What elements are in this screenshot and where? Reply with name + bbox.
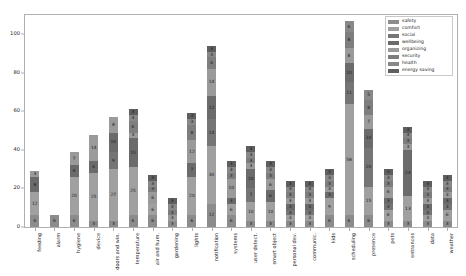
bar-segment[interactable]: 8 — [364, 100, 373, 115]
bar-segment[interactable]: 12 — [187, 140, 196, 163]
bar-group[interactable]: 3333107103 — [246, 15, 255, 227]
bar-segment[interactable]: 8 — [345, 32, 354, 47]
bar-segment[interactable]: 3 — [423, 221, 432, 227]
bar-segment[interactable]: 6 — [364, 215, 373, 227]
bar-segment[interactable]: 9 — [325, 198, 334, 215]
bar-segment[interactable]: 20 — [364, 148, 373, 187]
bar-segment[interactable]: 10 — [246, 202, 255, 221]
bar-segment[interactable]: 8 — [345, 48, 354, 63]
bar-segment[interactable]: 9 — [109, 152, 118, 169]
bar-group[interactable]: 333666 — [148, 15, 157, 227]
bar-segment[interactable]: 3 — [443, 221, 452, 227]
bar-segment[interactable]: 10 — [246, 169, 255, 188]
bar-group[interactable]: 336315256 — [129, 15, 138, 227]
bar-segment[interactable]: 6 — [325, 215, 334, 227]
bar-segment[interactable]: 3 — [403, 221, 412, 227]
bar-group[interactable]: 33366103 — [266, 15, 275, 227]
bar-segment[interactable]: 3 — [286, 221, 295, 227]
bar-segment[interactable]: 25 — [89, 173, 98, 221]
bar-group[interactable]: 8109273 — [109, 15, 118, 227]
bar-segment[interactable]: 6 — [227, 215, 236, 227]
bar-segment[interactable]: 7 — [246, 188, 255, 201]
bar-segment[interactable]: 15 — [129, 138, 138, 167]
bar-segment[interactable]: 13 — [403, 196, 412, 221]
bar-segment[interactable]: 6 — [148, 215, 157, 227]
bar-segment[interactable]: 30 — [207, 146, 216, 204]
bar-segment[interactable]: 10 — [364, 129, 373, 148]
bar-group[interactable]: 76206 — [70, 15, 79, 227]
bar-segment[interactable]: 6 — [70, 165, 79, 177]
bar-segment[interactable]: 6 — [384, 187, 393, 199]
bar-group[interactable]: 6 — [50, 15, 59, 227]
bar-segment[interactable]: 6 — [129, 121, 138, 133]
legend-item[interactable]: social — [388, 32, 450, 39]
legend-item[interactable]: safety — [388, 18, 450, 25]
bar-group[interactable]: 338127206 — [187, 15, 196, 227]
bar-group[interactable]: 33310366 — [227, 15, 236, 227]
bar-segment[interactable]: 12 — [207, 96, 216, 119]
bar-segment[interactable]: 3 — [89, 221, 98, 227]
bar-group[interactable]: 6881011586 — [345, 15, 354, 227]
bar-segment[interactable]: 10 — [345, 63, 354, 82]
bar-segment[interactable]: 6 — [50, 215, 59, 227]
bar-segment[interactable]: 12 — [30, 192, 39, 215]
bar-segment[interactable]: 25 — [129, 167, 138, 215]
bar-segment[interactable]: 7 — [187, 163, 196, 176]
bar-segment[interactable]: 15 — [364, 187, 373, 216]
legend-item[interactable]: wellbeing — [388, 39, 450, 46]
bar-segment[interactable]: 6 — [148, 204, 157, 216]
bar-segment[interactable]: 6 — [345, 215, 354, 227]
bar-group[interactable]: 146253 — [89, 15, 98, 227]
bar-segment[interactable]: 12 — [207, 204, 216, 227]
legend-item[interactable]: comfort — [388, 25, 450, 32]
bar-segment[interactable]: 6 — [89, 161, 98, 173]
bar-segment[interactable]: 8 — [109, 117, 118, 132]
bar-segment[interactable]: 14 — [89, 135, 98, 162]
bar-segment[interactable]: 58 — [345, 104, 354, 216]
bar-group[interactable]: 38126 — [30, 15, 39, 227]
bar-segment[interactable]: 6 — [266, 179, 275, 191]
bar-segment[interactable]: 3 — [305, 221, 314, 227]
legend-item[interactable]: organizing — [388, 46, 450, 53]
bar-segment[interactable]: 11 — [345, 82, 354, 103]
bar-segment[interactable]: 24 — [403, 150, 412, 196]
bar-segment[interactable]: 6 — [129, 215, 138, 227]
bar-segment[interactable]: 27 — [109, 169, 118, 221]
bar-group[interactable]: 33333333 — [286, 15, 295, 227]
bar-segment[interactable]: 20 — [187, 177, 196, 216]
bar-segment[interactable]: 7 — [364, 115, 373, 128]
bar-segment[interactable]: 6 — [266, 190, 275, 202]
bar-segment[interactable]: 3 — [168, 221, 177, 227]
bar-segment[interactable]: 3 — [246, 221, 255, 227]
bar-segment[interactable]: 3 — [384, 221, 393, 227]
bar-group[interactable]: 33333 — [168, 15, 177, 227]
bar-segment[interactable]: 6 — [207, 57, 216, 69]
bar-group[interactable]: 5871020156 — [364, 15, 373, 227]
bar-group[interactable]: 3333396 — [325, 15, 334, 227]
bar-segment[interactable]: 20 — [70, 177, 79, 216]
bar-segment[interactable]: 14 — [207, 69, 216, 96]
bar-segment[interactable]: 6 — [187, 215, 196, 227]
legend-item[interactable]: security — [388, 53, 450, 60]
bar-segment[interactable]: 6 — [345, 21, 354, 33]
legend-item[interactable]: health — [388, 60, 450, 67]
bar-segment[interactable]: 14 — [207, 119, 216, 146]
bar-segment[interactable]: 8 — [187, 125, 196, 140]
bar-segment[interactable]: 6 — [227, 204, 236, 216]
bar-segment[interactable]: 5 — [364, 90, 373, 100]
bar-segment[interactable]: 10 — [109, 133, 118, 152]
bar-segment[interactable]: 3 — [266, 221, 275, 227]
bar-group[interactable]: 33333333 — [305, 15, 314, 227]
bar-segment[interactable]: 6 — [30, 215, 39, 227]
bar-segment[interactable]: 7 — [70, 152, 79, 165]
bar-group[interactable]: 3361412143012 — [207, 15, 216, 227]
bar-segment[interactable]: 10 — [227, 179, 236, 198]
bar-segment[interactable]: 6 — [148, 192, 157, 204]
bar-segment[interactable]: 6 — [384, 210, 393, 222]
bar-segment[interactable]: 6 — [70, 215, 79, 227]
bar-segment[interactable]: 6 — [443, 210, 452, 222]
bar-segment[interactable]: 8 — [30, 177, 39, 192]
legend-item[interactable]: energy saving — [388, 67, 450, 74]
bar-segment[interactable]: 3 — [109, 221, 118, 227]
bar-segment[interactable]: 10 — [266, 202, 275, 221]
